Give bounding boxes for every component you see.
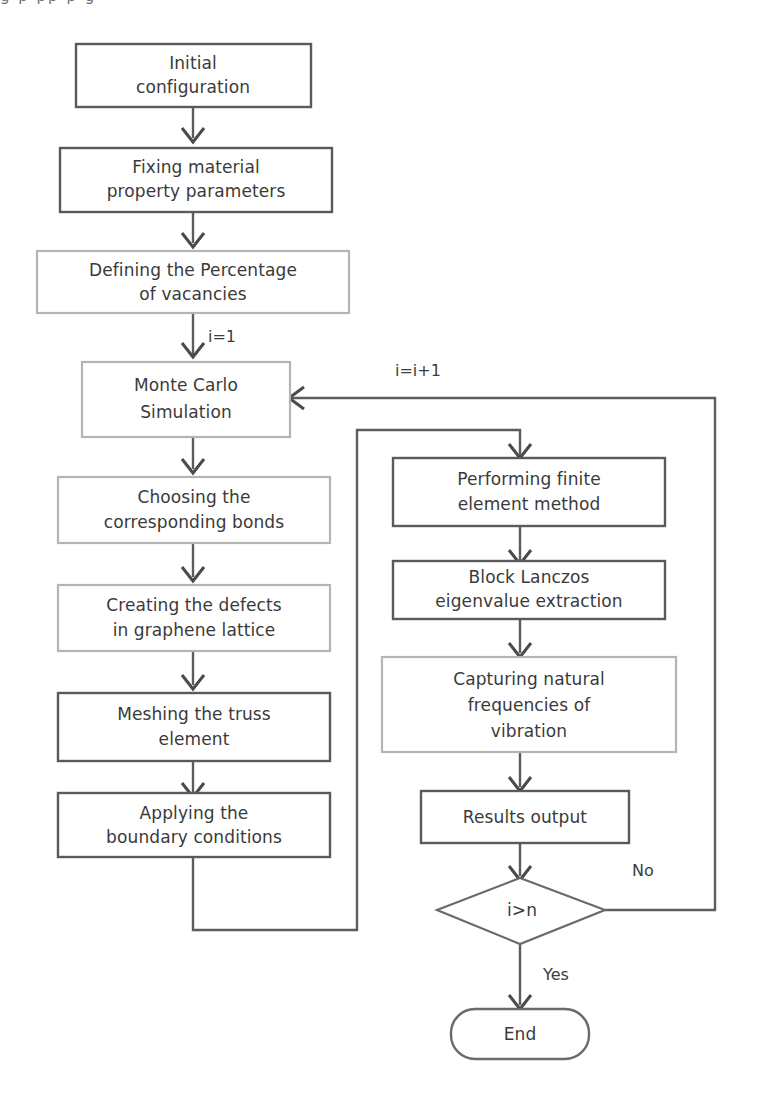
node-meshing-truss-line2: element <box>159 729 230 749</box>
connector-fem-to-lanczos <box>509 526 531 564</box>
node-choosing-bonds-line2: corresponding bonds <box>104 512 284 532</box>
node-performing-fem-line1: Performing finite <box>457 469 600 489</box>
node-monte-carlo-line2: Simulation <box>140 402 232 422</box>
edge-label-increment-index: i=i+1 <box>395 361 441 380</box>
flowchart-root: g p pp p g <box>0 0 758 1099</box>
node-results-output[interactable]: Results output <box>421 791 629 843</box>
node-block-lanczos-line1: Block Lanczos <box>469 567 590 587</box>
node-end[interactable]: End <box>451 1009 589 1059</box>
connector-montecarlo-to-choosing <box>182 437 204 473</box>
node-results-output-label: Results output <box>463 807 587 827</box>
node-capturing-frequencies-line2: frequencies of <box>468 695 591 715</box>
node-end-label: End <box>504 1024 537 1044</box>
node-decision-i-greater-n[interactable]: i>n <box>437 878 605 944</box>
node-block-lanczos[interactable]: Block Lanczos eigenvalue extraction <box>393 561 665 619</box>
connector-choosing-to-creating <box>182 543 204 581</box>
node-defining-percentage[interactable]: Defining the Percentage of vacancies <box>37 251 349 313</box>
node-monte-carlo-line1: Monte Carlo <box>134 375 238 395</box>
node-choosing-bonds-line1: Choosing the <box>137 487 250 507</box>
node-meshing-truss[interactable]: Meshing the truss element <box>58 693 330 761</box>
edge-label-decision-no: No <box>632 861 654 880</box>
node-fixing-material-line2: property parameters <box>107 181 286 201</box>
node-creating-defects-line2: in graphene lattice <box>113 620 276 640</box>
node-capturing-frequencies-line3: vibration <box>491 721 567 741</box>
node-decision-label: i>n <box>507 900 537 920</box>
node-fixing-material-line1: Fixing material <box>132 157 259 177</box>
node-capturing-frequencies[interactable]: Capturing natural frequencies of vibrati… <box>382 657 676 752</box>
connector-defining-to-montecarlo <box>182 313 204 357</box>
node-initial-configuration-line2: configuration <box>136 77 250 97</box>
node-initial-configuration[interactable]: Initial configuration <box>76 44 311 107</box>
node-applying-bc-line2: boundary conditions <box>106 827 282 847</box>
node-capturing-frequencies-line1: Capturing natural <box>453 669 605 689</box>
node-fixing-material[interactable]: Fixing material property parameters <box>60 148 332 212</box>
edge-label-decision-yes: Yes <box>542 965 569 984</box>
node-performing-fem-line2: element method <box>458 494 601 514</box>
connector-creating-to-meshing <box>182 651 204 689</box>
node-performing-fem[interactable]: Performing finite element method <box>393 458 665 526</box>
connector-results-to-decision <box>509 843 531 880</box>
connector-initial-to-fixing <box>182 107 204 142</box>
node-applying-boundary-conditions[interactable]: Applying the boundary conditions <box>58 793 330 857</box>
node-defining-percentage-line1: Defining the Percentage <box>89 260 297 280</box>
connector-meshing-to-applying <box>182 761 204 797</box>
node-creating-defects-line1: Creating the defects <box>106 595 282 615</box>
node-block-lanczos-line2: eigenvalue extraction <box>435 591 622 611</box>
page-text-fragment: g p pp p g <box>0 0 758 14</box>
edge-label-init-index: i=1 <box>208 327 236 346</box>
connector-fixing-to-defining <box>182 212 204 247</box>
node-defining-percentage-line2: of vacancies <box>139 284 246 304</box>
connector-lanczos-to-capturing <box>509 619 531 657</box>
connector-capturing-to-results <box>509 752 531 791</box>
node-applying-bc-line1: Applying the <box>140 803 249 823</box>
node-creating-defects[interactable]: Creating the defects in graphene lattice <box>58 585 330 651</box>
node-meshing-truss-line1: Meshing the truss <box>117 704 271 724</box>
node-choosing-bonds[interactable]: Choosing the corresponding bonds <box>58 477 330 543</box>
connector-decision-yes-to-end <box>509 944 531 1009</box>
flowchart-canvas: Initial configuration Fixing material pr… <box>0 0 758 1099</box>
node-monte-carlo[interactable]: Monte Carlo Simulation <box>82 362 290 437</box>
node-initial-configuration-line1: Initial <box>169 53 217 73</box>
